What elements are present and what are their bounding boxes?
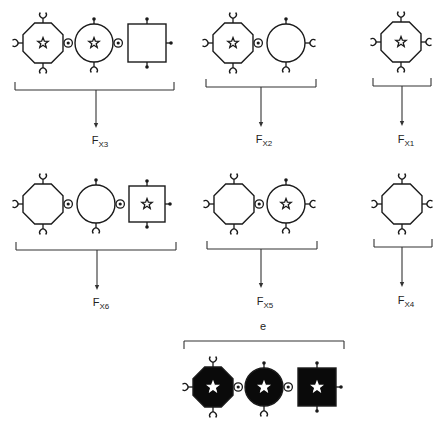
port-cup-icon <box>398 11 405 17</box>
port-cup-icon <box>310 201 316 208</box>
circle-shape <box>75 24 113 62</box>
square-node <box>128 17 173 69</box>
port-cup-icon <box>283 67 290 73</box>
port-cup-icon <box>398 67 405 73</box>
circle-node <box>77 178 124 233</box>
port-cup-icon <box>12 201 18 208</box>
port-cup-icon <box>427 201 433 208</box>
port-dot-icon <box>168 202 172 206</box>
octagon-node <box>202 12 262 73</box>
port-dot-icon <box>315 361 319 365</box>
group-e <box>182 341 344 418</box>
port-cup-icon <box>370 39 376 46</box>
circle-shape <box>77 185 115 223</box>
port-cup-icon <box>210 356 217 362</box>
arrow-down-icon <box>259 283 263 288</box>
port-cup-icon <box>202 40 208 47</box>
label-e: e <box>260 320 266 332</box>
circle-node <box>267 178 316 233</box>
port-dot-icon <box>94 178 98 182</box>
group-x6 <box>12 173 176 290</box>
label-sub: X3 <box>98 140 108 149</box>
octagon-shape <box>213 23 253 63</box>
port-socket-dot <box>287 385 290 388</box>
label-main: F <box>93 296 100 308</box>
port-cup-icon <box>40 68 47 74</box>
group-x2 <box>202 12 316 127</box>
bracket <box>207 241 317 288</box>
circle-node <box>267 17 316 72</box>
octagon-shape <box>23 23 63 63</box>
port-cup-icon <box>210 412 217 418</box>
port-cup-icon <box>261 411 268 417</box>
group-x3 <box>12 12 174 128</box>
port-cup-icon <box>182 384 188 391</box>
arrow-down-icon <box>259 122 263 127</box>
port-cup-icon <box>93 228 100 234</box>
label-main: F <box>256 133 263 145</box>
square-shape <box>128 24 166 62</box>
label-main: F <box>398 133 405 145</box>
bracket <box>16 242 176 290</box>
circle-node <box>75 17 122 72</box>
label-fx2: FX2 <box>256 133 273 148</box>
label-main: F <box>257 295 264 307</box>
port-cup-icon <box>426 39 432 46</box>
circle-node <box>245 361 292 416</box>
label-main: F <box>92 134 99 146</box>
port-dot-icon <box>145 225 149 229</box>
port-cup-icon <box>231 173 238 179</box>
port-dot-icon <box>339 385 343 389</box>
label-sub: X2 <box>262 139 272 148</box>
group-x1 <box>370 11 431 126</box>
port-dot-icon <box>145 65 149 69</box>
port-socket-dot <box>257 41 260 44</box>
bracket <box>374 239 432 287</box>
diagram-svg <box>0 0 444 428</box>
arrow-down-icon <box>94 123 98 128</box>
octagon-shape <box>382 184 422 224</box>
port-cup-icon <box>371 201 377 208</box>
label-sub: X6 <box>99 302 109 311</box>
square-node <box>298 361 343 413</box>
port-dot-icon <box>145 17 149 21</box>
octagon-node <box>370 11 431 72</box>
group-x5 <box>203 173 317 288</box>
port-cup-icon <box>230 12 237 18</box>
bracket <box>15 82 174 128</box>
port-cup-icon <box>231 229 238 235</box>
port-dot-icon <box>284 178 288 182</box>
label-main: F <box>398 294 405 306</box>
port-dot-icon <box>145 179 149 183</box>
port-dot-icon <box>262 361 266 365</box>
arrow-down-icon <box>400 282 404 287</box>
port-socket-dot <box>117 41 120 44</box>
port-cup-icon <box>12 40 18 47</box>
octagon-shape <box>214 184 254 224</box>
port-cup-icon <box>203 201 209 208</box>
label-fx5: FX5 <box>257 295 274 310</box>
arrow-down-icon <box>95 285 99 290</box>
port-socket-dot <box>258 202 261 205</box>
port-socket-dot <box>67 202 70 205</box>
octagon-node <box>12 12 72 73</box>
group-x4 <box>371 173 432 287</box>
label-sub: X5 <box>263 301 273 310</box>
port-dot-icon <box>92 17 96 21</box>
octagon-node <box>182 356 242 417</box>
label-fx6: FX6 <box>93 296 110 311</box>
octagon-node <box>203 173 263 234</box>
square-shape <box>129 186 165 222</box>
square-node <box>129 179 172 229</box>
circle-shape <box>267 24 305 62</box>
port-cup-icon <box>40 12 47 18</box>
diagram-canvas <box>0 0 444 428</box>
port-dot-icon <box>169 41 173 45</box>
port-socket-dot <box>237 385 240 388</box>
circle-shape <box>267 185 305 223</box>
arrow-down-icon <box>400 121 404 126</box>
octagon-shape <box>381 22 421 62</box>
port-dot-icon <box>315 409 319 413</box>
port-cup-icon <box>230 68 237 74</box>
label-sub: X1 <box>404 139 414 148</box>
